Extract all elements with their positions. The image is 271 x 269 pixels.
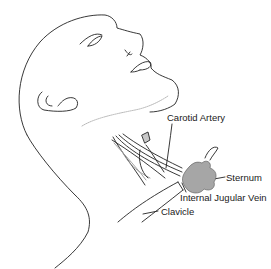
jaw-line bbox=[82, 96, 168, 126]
lips bbox=[131, 62, 151, 72]
clavicle-leader bbox=[143, 211, 158, 214]
head-outline bbox=[19, 15, 178, 135]
sternum-notch bbox=[205, 147, 218, 160]
label-internal-jugular-vein: Internal Jugular Vein bbox=[180, 193, 267, 203]
eye bbox=[80, 34, 102, 46]
label-carotid-artery: Carotid Artery bbox=[167, 113, 225, 123]
nostril bbox=[125, 50, 132, 56]
anatomy-diagram: Carotid Artery Sternum Internal Jugular … bbox=[0, 0, 271, 269]
syringe-hub bbox=[142, 132, 150, 143]
sternum-shape bbox=[182, 161, 216, 193]
needle bbox=[146, 145, 164, 172]
ear bbox=[38, 92, 78, 111]
neck-back bbox=[27, 135, 89, 268]
anatomy-illustration bbox=[0, 0, 271, 269]
label-sternum: Sternum bbox=[226, 173, 262, 183]
label-clavicle: Clavicle bbox=[161, 207, 194, 217]
